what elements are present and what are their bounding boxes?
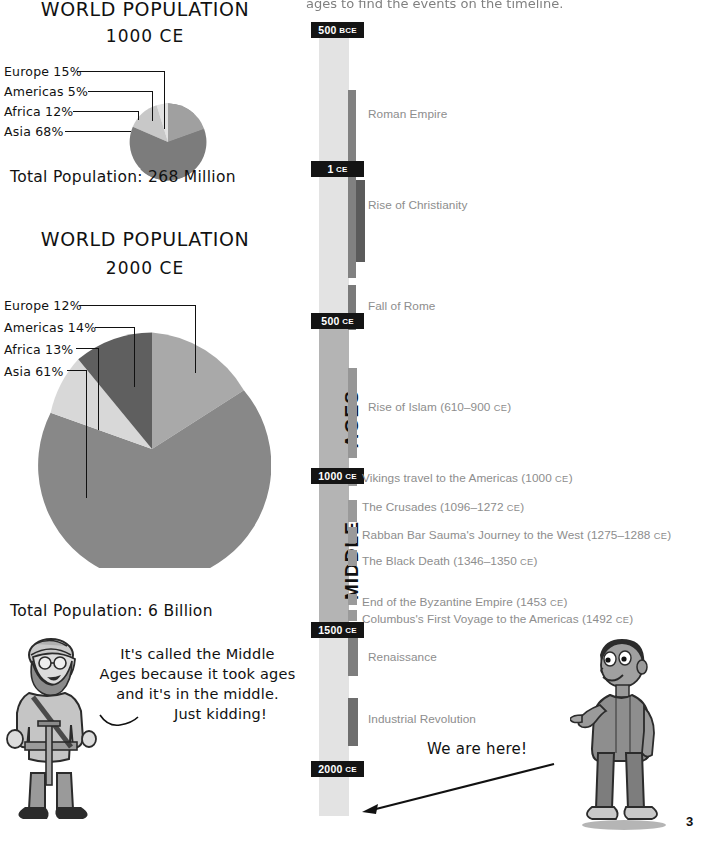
we-are-here-label: We are here!: [427, 740, 527, 758]
event-bar-rise-of-christianity: [356, 180, 365, 262]
event-label-tail: ): [520, 500, 524, 514]
date-chip-year: 500: [321, 315, 339, 327]
event-label-text: The Crusades (1096–1272: [362, 500, 507, 514]
date-chip-1000-ce: 1000 CE: [311, 468, 364, 484]
event-label-era: CE: [555, 474, 569, 484]
event-bar-roman-empire: [348, 90, 356, 278]
event-label-crusades: The Crusades (1096–1272 CE): [362, 500, 524, 514]
date-chip-500-bce: 500 BCE: [311, 22, 364, 38]
date-chip-era: CE: [342, 317, 354, 326]
chart-2000ce-total: Total Population: 6 Billion: [10, 602, 213, 620]
event-label-era: CE: [494, 403, 508, 413]
event-label-text: Fall of Rome: [368, 299, 435, 313]
event-label-tail: ): [507, 400, 511, 414]
event-bar-byzantine-end: [348, 594, 357, 605]
leader-line-africa-1000: [73, 111, 139, 112]
leader-line-europe-1000-v: [164, 71, 165, 129]
leader-line-asia-2000: [67, 370, 87, 371]
leader-line-americas-2000-v: [134, 327, 135, 387]
event-label-industrial-revolution: Industrial Revolution: [368, 712, 476, 726]
event-label-tail: ): [629, 612, 633, 626]
event-label-text: Industrial Revolution: [368, 712, 476, 726]
date-chip-year: 1: [327, 163, 333, 175]
event-label-text: Columbus's First Voyage to the Americas …: [362, 612, 616, 626]
event-label-era: CE: [654, 531, 668, 541]
chart-1000ce-title: WORLD POPULATION: [0, 0, 290, 20]
date-chip-1-ce: 1 CE: [311, 161, 364, 177]
leader-line-europe-2000: [79, 305, 196, 306]
event-label-black-death: The Black Death (1346–1350 CE): [362, 554, 538, 568]
leader-line-africa-2000-v: [98, 348, 99, 430]
speech-line-2: Ages because it took ages: [95, 664, 300, 684]
leader-line-asia-1000: [65, 131, 131, 132]
pie-1000ce-label-africa: Africa 12%: [4, 104, 73, 119]
leader-line-americas-2000: [95, 327, 135, 328]
page-number: 3: [686, 814, 693, 829]
date-chip-500-ce: 500 CE: [311, 313, 364, 329]
event-bar-rabban-bar-sauma: [348, 527, 357, 543]
event-label-text: Rise of Islam (610–900: [368, 400, 494, 414]
pie-2000ce-label-americas: Americas 14%: [4, 320, 96, 335]
event-label-text: The Black Death (1346–1350: [362, 554, 520, 568]
date-chip-year: 1500: [318, 624, 343, 636]
leader-line-americas-1000-v: [152, 91, 153, 121]
event-label-fall-of-rome: Fall of Rome: [368, 299, 435, 313]
chart-2000ce-subtitle: 2000 CE: [0, 258, 290, 278]
pie-1000ce-label-asia: Asia 68%: [4, 124, 64, 139]
boy-character-illustration: [570, 635, 680, 835]
date-chip-era: BCE: [339, 26, 357, 35]
event-bar-crusades: [348, 500, 357, 522]
event-label-tail: ): [563, 595, 567, 609]
event-label-rise-of-islam: Rise of Islam (610–900 CE): [368, 400, 511, 414]
event-label-era: CE: [507, 503, 521, 513]
knight-speech-bubble: It's called the Middle Ages because it t…: [95, 644, 300, 724]
speech-line-3: and it's in the middle.: [95, 684, 300, 704]
event-label-rabban-bar-sauma: Rabban Bar Sauma's Journey to the West (…: [362, 528, 671, 542]
date-chip-year: 500: [318, 24, 336, 36]
pie-2000ce-label-asia: Asia 61%: [4, 364, 64, 379]
speech-tail-squiggle: [98, 713, 140, 729]
pie-2000ce-label-europe: Europe 12%: [4, 298, 82, 313]
date-chip-era: CE: [345, 626, 357, 635]
event-label-byzantine-end: End of the Byzantine Empire (1453 CE): [362, 595, 567, 609]
event-label-text: End of the Byzantine Empire (1453: [362, 595, 550, 609]
pie-1000ce-label-europe: Europe 15%: [4, 64, 82, 79]
event-label-tail: ): [667, 528, 671, 542]
date-chip-year: 2000: [318, 763, 343, 775]
leader-line-americas-1000: [88, 91, 153, 92]
pie-2000ce-label-africa: Africa 13%: [4, 342, 73, 357]
date-chip-1500-ce: 1500 CE: [311, 622, 364, 638]
we-are-here-arrow: [358, 762, 558, 822]
leader-line-europe-2000-v: [195, 305, 196, 373]
pie-1000ce-label-americas: Americas 5%: [4, 84, 88, 99]
date-chip-era: CE: [336, 165, 348, 174]
date-chip-2000-ce: 2000 CE: [311, 761, 364, 777]
event-label-era: CE: [520, 557, 534, 567]
date-chip-era: CE: [345, 472, 357, 481]
leader-line-africa-2000: [76, 348, 99, 349]
event-label-era: CE: [550, 598, 564, 608]
event-label-vikings: Vikings travel to the Americas (1000 CE): [362, 471, 573, 485]
leader-line-europe-1000: [77, 71, 165, 72]
speech-line-1: It's called the Middle: [95, 644, 300, 664]
event-label-era: CE: [616, 615, 630, 625]
event-bar-industrial-revolution: [348, 698, 358, 746]
chart-1000ce-subtitle: 1000 CE: [0, 26, 290, 46]
event-bar-renaissance: [348, 638, 358, 676]
event-label-text: Rise of Christianity: [368, 198, 467, 212]
event-bar-rise-of-islam: [348, 368, 357, 458]
event-bar-columbus: [348, 610, 357, 621]
event-label-renaissance: Renaissance: [368, 650, 437, 664]
leader-line-asia-2000-v: [86, 370, 87, 498]
chart-2000ce: WORLD POPULATION 2000 CE Europe 12% Amer…: [0, 220, 300, 620]
event-label-tail: ): [569, 471, 573, 485]
event-label-text: Rabban Bar Sauma's Journey to the West (…: [362, 528, 654, 542]
event-label-tail: ): [534, 554, 538, 568]
chart-1000ce: WORLD POPULATION 1000 CE Europe 15% Amer…: [0, 0, 300, 200]
event-label-roman-empire: Roman Empire: [368, 107, 447, 121]
event-label-text: Vikings travel to the Americas (1000: [362, 471, 555, 485]
date-chip-year: 1000: [318, 470, 343, 482]
chart-1000ce-total: Total Population: 268 Million: [10, 168, 236, 186]
pie-2000ce-graphic: [33, 330, 271, 568]
chart-2000ce-title: WORLD POPULATION: [0, 228, 290, 250]
